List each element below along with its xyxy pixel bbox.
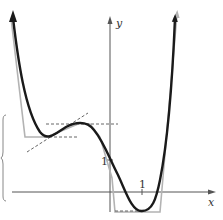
function-graph: y x 1 1 [0,0,223,220]
polynomial-curve-start-arrow [9,10,17,22]
left-brace [1,115,6,201]
x-axis-label: x [208,196,215,209]
y-axis-label: y [115,17,123,30]
piecewise-linear-approximation [11,14,177,212]
y-tick-label: 1 [101,155,108,168]
polynomial-curve [13,18,175,211]
x-tick-label: 1 [139,178,146,191]
